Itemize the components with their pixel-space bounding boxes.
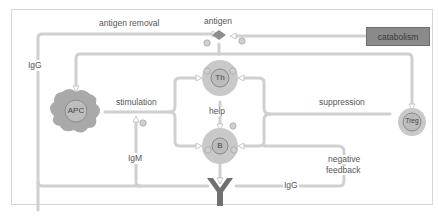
plus-sign-icon (140, 120, 146, 126)
antigen-icon (212, 30, 226, 40)
suppression-b-arrow (244, 114, 270, 146)
minus-sign-icon (239, 38, 245, 44)
apc-label: APC (66, 107, 86, 115)
igg-left-label: IgG (28, 60, 42, 71)
help-label: help (209, 107, 225, 116)
antigen-label: antigen (204, 17, 232, 26)
catabolism-box: catabolism (366, 27, 430, 46)
treg-label: Treg (403, 118, 421, 125)
igm-label: IgM (128, 153, 142, 164)
negative-label: negative (328, 155, 360, 164)
b-label: B (214, 142, 226, 150)
suppression-label: suppression (319, 98, 365, 107)
th-label: Th (212, 74, 228, 82)
stimulation-label: stimulation (116, 98, 157, 107)
antigen-to-apc-arrow (76, 54, 219, 86)
plus-sign-icon (205, 147, 211, 153)
suppression-th-arrow (244, 78, 270, 114)
minus-sign-icon (204, 40, 210, 46)
plus-sign-icon (204, 68, 210, 74)
feedback-label: feedback (326, 166, 361, 175)
antigen-removal-label: antigen removal (99, 19, 159, 28)
stimulation-th-arrow (170, 78, 196, 112)
minus-sign-icon (231, 147, 237, 153)
minus-sign-icon (230, 68, 236, 74)
igg-bottom-label: IgG (283, 181, 299, 190)
stimulation-b-arrow (170, 112, 196, 146)
plus-sign-icon (230, 123, 236, 129)
